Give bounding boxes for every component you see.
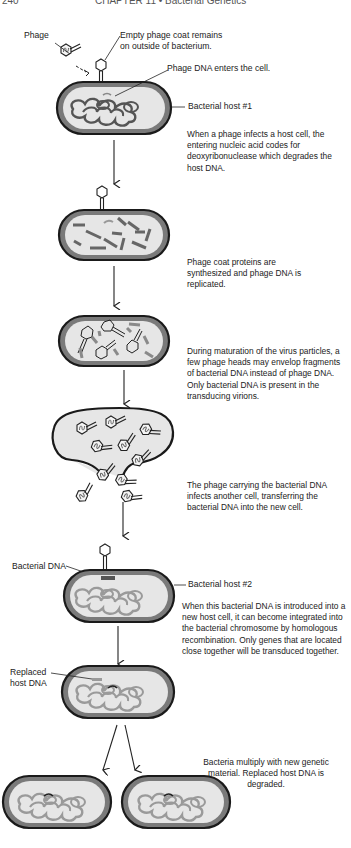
step-4-description: The phage carrying the bacterial DNA inf… (187, 480, 339, 514)
empty-phage-coat-label-line1: Empty phage coat remains (120, 30, 222, 41)
phage-assembly-cell (59, 316, 169, 366)
bacterial-host-2-cell (64, 570, 174, 622)
transduction-diagram (0, 0, 351, 848)
step-6-description: Bacteria multiply with new genetic mater… (196, 757, 336, 791)
host-dna-degraded-cell (59, 210, 169, 260)
bacterial-host-1-cell (57, 82, 171, 134)
phage-dna-enters-label: Phage DNA enters the cell. (167, 63, 270, 74)
step-1-description: When a phage infects a host cell, the en… (187, 129, 349, 174)
host-2-label: Bacterial host #2 (188, 579, 252, 590)
step-2-description: Phage coat proteins are synthesized and … (187, 257, 307, 291)
step-3-description: During maturation of the virus particles… (187, 346, 347, 402)
replaced-host-dna-label-line1: Replaced (10, 667, 46, 678)
recombinant-cell (62, 666, 174, 718)
step-5-description: When this bacterial DNA is introduced in… (182, 601, 350, 657)
daughter-cell-left (3, 776, 111, 828)
host-1-label: Bacterial host #1 (188, 101, 252, 112)
replaced-host-dna-label-line2: host DNA (10, 678, 47, 689)
empty-phage-coat-label-line2: on outside of bacterium. (120, 41, 212, 52)
phage-label: Phage (24, 30, 49, 41)
bacterial-dna-label: Bacterial DNA (12, 561, 66, 572)
